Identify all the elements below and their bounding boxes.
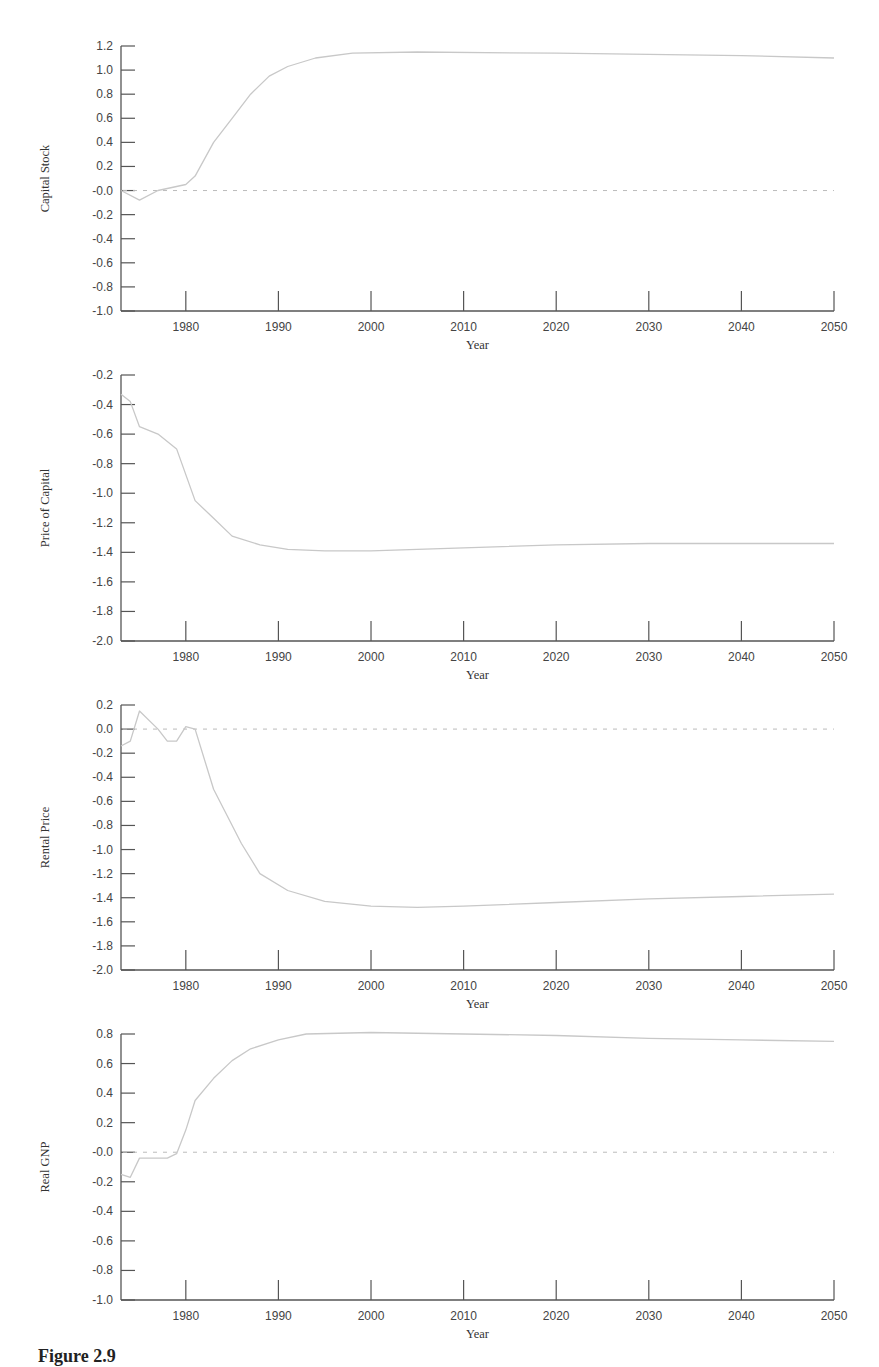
y-tick-label: -1.8 <box>92 604 113 618</box>
x-tick-label: 1980 <box>172 979 199 993</box>
y-tick-label: -0.2 <box>92 746 113 760</box>
x-tick-label: 2050 <box>821 650 848 664</box>
y-tick-label: -1.0 <box>92 843 113 857</box>
y-tick-label: -0.8 <box>92 818 113 832</box>
y-tick-label: -0.4 <box>92 1204 113 1218</box>
y-tick-label: -0.6 <box>92 427 113 441</box>
y-tick-label: 0.6 <box>96 111 113 125</box>
y-tick-label: -1.2 <box>92 867 113 881</box>
y-tick-label: 0.4 <box>96 1086 113 1100</box>
y-tick-label: -0.2 <box>92 208 113 222</box>
x-tick-label: 1980 <box>172 650 199 664</box>
y-tick-label: -0.4 <box>92 232 113 246</box>
x-tick-label: 2040 <box>728 1309 755 1323</box>
y-tick-label: -0.0 <box>92 184 113 198</box>
y-tick-label: 0.6 <box>96 1057 113 1071</box>
x-tick-label: 2050 <box>821 979 848 993</box>
y-tick-label: -1.0 <box>92 1293 113 1307</box>
y-tick-label: -2.0 <box>92 634 113 648</box>
x-tick-label: 1980 <box>172 1309 199 1323</box>
x-tick-label: 2030 <box>635 650 662 664</box>
x-tick-label: 1980 <box>172 320 199 334</box>
x-tick-label: 2010 <box>450 320 477 334</box>
x-tick-label: 2040 <box>728 320 755 334</box>
y-tick-label: -1.0 <box>92 304 113 318</box>
y-tick-label: 0.2 <box>96 159 113 173</box>
y-tick-label: -2.0 <box>92 963 113 977</box>
x-tick-label: 2030 <box>635 320 662 334</box>
chart-panel-4: 0.80.60.40.2-0.0-0.2-0.4-0.6-0.8-1.01980… <box>38 1027 848 1341</box>
y-tick-label: 0.0 <box>96 722 113 736</box>
x-tick-label: 2000 <box>358 1309 385 1323</box>
x-axis-title: Year <box>466 997 490 1011</box>
x-tick-label: 2010 <box>450 979 477 993</box>
x-tick-label: 2050 <box>821 1309 848 1323</box>
y-tick-label: -1.6 <box>92 915 113 929</box>
y-tick-label: -1.6 <box>92 575 113 589</box>
x-tick-label: 1990 <box>265 979 292 993</box>
x-tick-label: 2020 <box>543 1309 570 1323</box>
data-series-line <box>121 52 834 200</box>
y-tick-label: -1.4 <box>92 545 113 559</box>
y-tick-label: 0.2 <box>96 698 113 712</box>
y-tick-label: -0.6 <box>92 256 113 270</box>
x-tick-label: 2000 <box>358 979 385 993</box>
x-tick-label: 2020 <box>543 979 570 993</box>
y-tick-label: -1.8 <box>92 939 113 953</box>
data-series-line <box>121 1033 834 1178</box>
x-tick-label: 1990 <box>265 650 292 664</box>
y-axis-title: Real GNP <box>38 1141 52 1192</box>
x-axis-title: Year <box>466 338 490 352</box>
x-tick-label: 2000 <box>358 320 385 334</box>
x-axis-title: Year <box>466 1327 490 1341</box>
x-tick-label: 2030 <box>635 979 662 993</box>
x-tick-label: 2030 <box>635 1309 662 1323</box>
y-axis-title: Capital Stock <box>38 144 52 212</box>
y-tick-label: 0.4 <box>96 135 113 149</box>
y-tick-label: -1.2 <box>92 516 113 530</box>
x-tick-label: 2050 <box>821 320 848 334</box>
x-tick-label: 1990 <box>265 1309 292 1323</box>
y-tick-label: 1.0 <box>96 63 113 77</box>
y-tick-label: -0.8 <box>92 457 113 471</box>
chart-panel-1: 1.21.00.80.60.40.2-0.0-0.2-0.4-0.6-0.8-1… <box>38 39 848 352</box>
chart-panel-3: 0.20.0-0.2-0.4-0.6-0.8-1.0-1.2-1.4-1.6-1… <box>38 698 848 1011</box>
y-tick-label: 0.8 <box>96 1027 113 1041</box>
x-tick-label: 2000 <box>358 650 385 664</box>
y-tick-label: -0.0 <box>92 1145 113 1159</box>
y-tick-label: -1.0 <box>92 486 113 500</box>
y-tick-label: -0.2 <box>92 1175 113 1189</box>
y-tick-label: -1.4 <box>92 891 113 905</box>
figure-caption: Figure 2.9 <box>38 1346 116 1367</box>
x-tick-label: 2020 <box>543 320 570 334</box>
y-axis-title: Rental Price <box>38 806 52 868</box>
y-tick-label: -0.6 <box>92 794 113 808</box>
y-tick-label: 0.8 <box>96 87 113 101</box>
x-tick-label: 2010 <box>450 650 477 664</box>
x-tick-label: 2010 <box>450 1309 477 1323</box>
data-series-line <box>121 711 834 907</box>
x-tick-label: 2020 <box>543 650 570 664</box>
y-tick-label: 1.2 <box>96 39 113 53</box>
y-tick-label: -0.2 <box>92 368 113 382</box>
x-axis-title: Year <box>466 668 490 682</box>
y-tick-label: -0.8 <box>92 1263 113 1277</box>
y-tick-label: 0.2 <box>96 1116 113 1130</box>
x-tick-label: 1990 <box>265 320 292 334</box>
data-series-line <box>121 394 834 551</box>
x-tick-label: 2040 <box>728 979 755 993</box>
y-tick-label: -0.8 <box>92 280 113 294</box>
x-tick-label: 2040 <box>728 650 755 664</box>
y-tick-label: -0.4 <box>92 770 113 784</box>
y-axis-title: Price of Capital <box>38 468 52 547</box>
y-tick-label: -0.6 <box>92 1234 113 1248</box>
chart-panel-2: -0.2-0.4-0.6-0.8-1.0-1.2-1.4-1.6-1.8-2.0… <box>38 368 848 682</box>
y-tick-label: -0.4 <box>92 398 113 412</box>
